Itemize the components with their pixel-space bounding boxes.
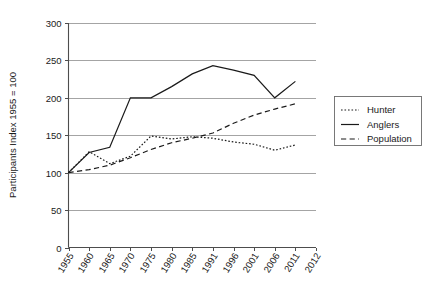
- data-series: [69, 66, 296, 173]
- chart-legend: HunterAnglersPopulation: [335, 97, 422, 146]
- y-axis-ticks: 050100150200250300: [46, 18, 69, 254]
- y-tick-label: 150: [46, 130, 62, 141]
- y-tick-label: 200: [46, 93, 62, 104]
- x-tick-label: 1970: [116, 251, 137, 275]
- series-line-population: [69, 104, 296, 173]
- chart-container: 050100150200250300 195519601965197019751…: [0, 0, 428, 290]
- x-tick-label: 1980: [158, 251, 179, 275]
- x-tick-label: 1965: [96, 251, 117, 275]
- x-tick-label: 2012: [302, 251, 323, 275]
- legend-label-hunter: Hunter: [367, 104, 396, 115]
- y-tick-label: 300: [46, 18, 62, 29]
- y-tick-label: 0: [56, 243, 61, 254]
- x-tick-label: 2011: [282, 251, 302, 274]
- x-tick-label: 1955: [55, 251, 76, 275]
- x-tick-label: 1960: [75, 251, 96, 275]
- legend-label-anglers: Anglers: [367, 119, 399, 130]
- x-tick-label: 2006: [261, 251, 282, 275]
- x-tick-label: 1985: [178, 251, 199, 275]
- x-axis-ticks: 1955196019651970197519801985199119962001…: [55, 248, 323, 275]
- y-tick-label: 50: [51, 205, 62, 216]
- y-axis-title: Participants Index 1955 = 100: [7, 72, 18, 198]
- y-tick-label: 250: [46, 55, 62, 66]
- x-tick-label: 1975: [137, 251, 158, 275]
- series-line-anglers: [69, 66, 296, 173]
- x-tick-label: 2001: [240, 251, 261, 275]
- line-chart: 050100150200250300 195519601965197019751…: [0, 0, 428, 290]
- x-tick-label: 1996: [220, 251, 241, 275]
- gridlines: [69, 24, 317, 211]
- legend-label-population: Population: [367, 133, 412, 144]
- x-tick-label: 1991: [199, 251, 220, 275]
- y-tick-label: 100: [46, 168, 62, 179]
